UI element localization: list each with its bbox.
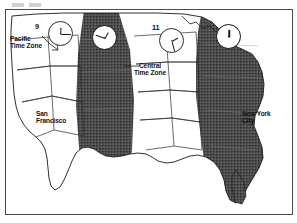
central-clock — [159, 28, 184, 53]
time-zone-map-figure: 9 11 Pacific Time Zone Central Time Zone… — [0, 0, 297, 223]
eastern-clock — [216, 24, 241, 49]
pacific-hour-label: 9 — [35, 23, 39, 31]
mountain-clock — [92, 25, 117, 50]
cropped-text-artifact — [12, 0, 52, 7]
pacific-clock — [48, 21, 73, 46]
central-hour-label: 11 — [152, 24, 160, 32]
pacific-time-zone-label: Pacific Time Zone — [10, 35, 42, 49]
map-frame: 9 11 Pacific Time Zone Central Time Zone… — [5, 9, 293, 215]
san-francisco-label: San Francisco — [36, 110, 66, 124]
new-york-city-label: New York City — [242, 110, 271, 124]
central-time-zone-label: Central Time Zone — [134, 62, 166, 76]
